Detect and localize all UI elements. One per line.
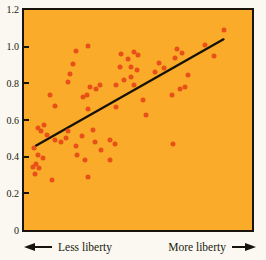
data-point — [107, 158, 112, 163]
data-point — [122, 77, 127, 82]
data-point — [91, 128, 96, 133]
data-point — [107, 138, 112, 143]
data-point — [53, 104, 58, 109]
data-point — [66, 129, 71, 134]
y-axis-tick-label: 0.4 — [0, 152, 19, 162]
data-point — [212, 53, 217, 58]
data-point — [44, 132, 49, 137]
data-point — [128, 64, 133, 69]
data-point — [97, 83, 102, 88]
scatter-chart-figure: 00.20.40.60.81.01.2 Less liberty More li… — [0, 0, 266, 260]
data-point — [63, 136, 68, 141]
data-point — [82, 158, 87, 163]
data-point — [222, 28, 227, 33]
plot-area — [22, 8, 254, 232]
data-point — [136, 53, 141, 58]
y-axis-tick — [24, 119, 29, 121]
data-point — [50, 177, 55, 182]
data-point — [73, 144, 78, 149]
x-axis-group-less: Less liberty — [24, 241, 112, 253]
data-point — [114, 83, 119, 88]
y-axis-tick — [24, 46, 29, 48]
y-axis-tick-label: 0.6 — [0, 116, 19, 126]
y-axis-tick-label: 0.8 — [0, 79, 19, 89]
y-axis-tick-label: 1.0 — [0, 42, 19, 52]
data-point — [177, 86, 182, 91]
data-point — [87, 85, 92, 90]
data-point — [53, 138, 58, 143]
y-axis-tick-label: 1.2 — [0, 5, 19, 15]
data-point — [48, 93, 53, 98]
y-axis-tick — [24, 192, 29, 194]
data-point — [84, 93, 89, 98]
right-arrow-icon — [232, 243, 256, 251]
data-point — [59, 140, 64, 145]
data-point — [85, 43, 90, 48]
data-point — [66, 80, 71, 85]
data-point — [74, 49, 79, 54]
data-point — [132, 83, 137, 88]
data-point — [144, 113, 149, 118]
data-point — [31, 146, 36, 151]
y-axis-tick — [24, 82, 29, 84]
data-point — [70, 62, 75, 67]
data-point — [68, 72, 73, 77]
data-point — [114, 105, 119, 110]
data-point — [92, 140, 97, 145]
data-point — [128, 74, 133, 79]
y-axis-tick-label: 0 — [0, 226, 19, 236]
data-point — [35, 153, 40, 158]
data-point — [117, 64, 122, 69]
data-point — [134, 67, 139, 72]
data-point — [182, 85, 187, 90]
x-axis-label-more-liberty: More liberty — [168, 241, 226, 253]
data-point — [161, 65, 166, 70]
data-point — [170, 92, 175, 97]
data-point — [141, 97, 146, 102]
data-point — [40, 156, 45, 161]
data-point — [32, 171, 37, 176]
left-arrow-icon — [24, 243, 52, 251]
x-axis-group-more: More liberty — [168, 241, 256, 253]
data-point — [185, 73, 190, 78]
data-point — [171, 142, 176, 147]
data-point — [112, 142, 117, 147]
data-point — [36, 126, 41, 131]
data-point — [86, 107, 91, 112]
trend-line — [24, 10, 252, 230]
data-point — [125, 56, 130, 61]
data-point — [41, 122, 46, 127]
y-axis-tick-label: 0.2 — [0, 189, 19, 199]
data-point — [175, 46, 180, 51]
data-point — [86, 175, 91, 180]
plot-inner — [24, 10, 252, 230]
data-point — [203, 42, 208, 47]
data-point — [172, 56, 177, 61]
x-axis-label-less-liberty: Less liberty — [58, 241, 112, 253]
data-point — [31, 164, 36, 169]
data-point — [153, 70, 158, 75]
data-point — [99, 148, 104, 153]
data-point — [118, 52, 123, 57]
x-axis-row: Less liberty More liberty — [24, 238, 256, 255]
data-point — [74, 153, 79, 158]
data-point — [37, 166, 42, 171]
data-point — [180, 51, 185, 56]
y-axis-tick — [24, 156, 29, 158]
data-point — [79, 133, 84, 138]
